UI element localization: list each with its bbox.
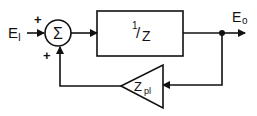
svg-text:E: E [232,9,241,25]
feedback-block: Z pl [121,65,163,108]
feedback-line-left [60,47,121,86]
sigma-symbol: Σ [53,25,63,42]
svg-text:o: o [242,15,248,26]
output-label: E o [232,9,248,26]
svg-text:Z: Z [134,79,142,94]
feedback-line-right [163,33,222,85]
summer-plus-bottom: + [43,48,51,63]
forward-block: 1 / Z [97,11,183,56]
input-label: E I [8,24,21,43]
svg-text:pl: pl [144,86,151,96]
summing-junction: Σ [45,20,71,46]
block-diagram: E I + Σ + 1 / Z E o Z pl [0,0,257,116]
svg-text:Z: Z [142,28,151,44]
svg-text:/: / [136,24,141,41]
svg-text:I: I [18,32,21,43]
svg-text:E: E [8,24,18,41]
summer-plus-top: + [34,12,42,27]
